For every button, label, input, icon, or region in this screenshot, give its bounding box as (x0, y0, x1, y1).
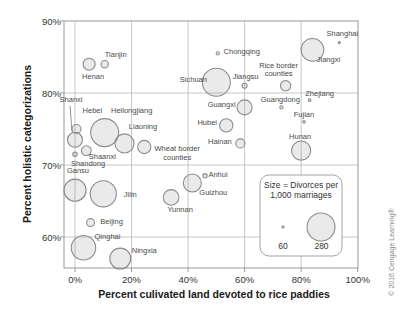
bubble-guizhou (183, 174, 201, 192)
bubble-henan (83, 58, 95, 70)
label-leader-shanxi (70, 106, 72, 132)
bubble-chart-figure: Percent culivated land devoted to rice p… (0, 0, 405, 314)
x-tick-label: 80% (292, 274, 311, 285)
y-tick-label: 90% (27, 16, 61, 27)
bubble-qinghai (71, 236, 95, 260)
bubble-liaoning (115, 134, 134, 153)
bubble-beijing (87, 219, 95, 227)
x-tick-label: 20% (122, 274, 141, 285)
legend-large-circle (307, 213, 335, 241)
legend-small-value-label: 60 (278, 241, 287, 251)
bubble-shanghai (338, 42, 340, 44)
legend-title: Size = Divorces per 1,000 marriages (260, 180, 342, 200)
x-axis-title: Percent culivated land devoted to rice p… (98, 288, 330, 300)
chart-canvas (0, 0, 405, 314)
bubble-guangdong (280, 106, 283, 109)
bubble-hainan (236, 139, 245, 148)
legend-title-line1: Size = Divorces per (264, 180, 338, 190)
bubble-sichuan (202, 68, 230, 96)
bubble-shanxi (68, 132, 83, 147)
bubble-guangxi (237, 100, 252, 115)
legend-large-value-label: 280 (314, 241, 328, 251)
legend-small-circle (282, 226, 284, 228)
bubble-wheat-border-counties (138, 140, 151, 153)
bubble-shandong (73, 152, 77, 156)
y-tick-label: 80% (27, 88, 61, 99)
x-tick-label: 0% (68, 274, 82, 285)
bubble-chongqing (216, 52, 219, 55)
x-tick-label: 60% (235, 274, 254, 285)
x-tick-label: 40% (179, 274, 198, 285)
bubble-jiangxi (301, 38, 324, 61)
bubble-anhui (203, 174, 207, 178)
bubble-jiangsu (242, 83, 247, 88)
copyright-notice: © 2016 Cengage Learning® (388, 208, 395, 295)
bubble-hunan (292, 141, 311, 160)
bubble-fujian (303, 121, 306, 124)
bubble-yunnan (163, 190, 179, 206)
bubble-ningxia (110, 248, 131, 269)
bubble-hebei (72, 124, 81, 133)
bubble-gansu (64, 179, 86, 201)
bubble-hubei (220, 119, 233, 132)
x-tick-label: 100% (346, 274, 370, 285)
bubble-zhejiang (308, 99, 311, 102)
y-tick-label: 70% (27, 160, 61, 171)
bubble-shaanxi (81, 146, 91, 156)
bubble-tianjin (101, 61, 108, 68)
legend-title-line2: 1,000 marriages (270, 190, 331, 200)
bubble-jilin (90, 181, 116, 207)
y-tick-label: 60% (27, 232, 61, 243)
bubble-rice-border-counties (280, 81, 290, 91)
